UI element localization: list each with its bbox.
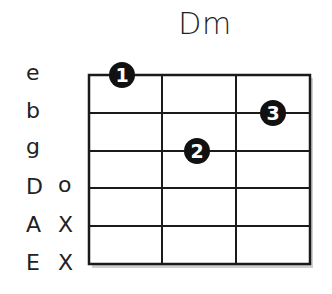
finger-dot-1: 1 bbox=[109, 62, 135, 88]
finger-dot-3: 3 bbox=[260, 100, 286, 126]
fretboard-grid: 1 3 2 bbox=[0, 0, 332, 294]
finger-number: 2 bbox=[190, 140, 203, 162]
finger-number: 1 bbox=[115, 64, 128, 86]
finger-dot-2: 2 bbox=[184, 138, 210, 164]
finger-number: 3 bbox=[266, 102, 279, 124]
